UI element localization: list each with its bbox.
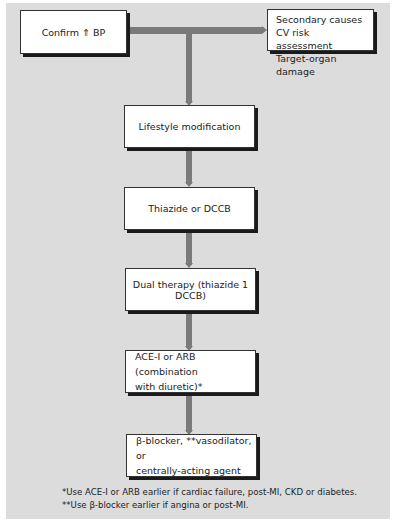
ace-arb-box: ACE-I or ARB (combination with diuretic)… (125, 350, 256, 393)
connector-vertical-1 (186, 30, 192, 103)
confirm-bp-box: Confirm ⇑ BP (20, 10, 127, 54)
assessment-line-2: CV risk assessment (276, 26, 365, 52)
connector-vertical-4 (186, 311, 192, 348)
step-5-line-2: centrally-acting agent (136, 463, 256, 478)
thiazide-dccb-box: Thiazide or DCCB (124, 187, 255, 230)
confirm-bp-label: Confirm ⇑ BP (42, 27, 106, 38)
step-3-label: Dual therapy (thiazide 1 DCCB) (126, 279, 255, 301)
assessment-line-1: Secondary causes (276, 13, 365, 26)
connector-vertical-5 (186, 393, 192, 432)
footnotes: *Use ACE-I or ARB earlier if cardiac fai… (62, 486, 357, 512)
connector-vertical-3 (186, 230, 192, 265)
connector-vertical-2 (186, 150, 192, 184)
step-1-label: Lifestyle modification (139, 121, 241, 132)
step-4-line-2: with diuretic)* (135, 379, 255, 394)
assessment-box: Secondary causes CV risk assessment Targ… (267, 9, 374, 51)
step-5-line-1: β-blocker, **vasodilator, or (136, 433, 256, 463)
step-4-line-1: ACE-I or ARB (combination (135, 349, 255, 379)
lifestyle-modification-box: Lifestyle modification (124, 105, 255, 148)
beta-blocker-box: β-blocker, **vasodilator, or centrally-a… (126, 434, 257, 477)
connector-horizontal (127, 27, 262, 34)
step-2-label: Thiazide or DCCB (148, 203, 231, 214)
dual-therapy-box: Dual therapy (thiazide 1 DCCB) (125, 268, 256, 311)
footnote-2: **Use β-blocker earlier if angina or pos… (62, 499, 357, 512)
footnote-1: *Use ACE-I or ARB earlier if cardiac fai… (62, 486, 357, 499)
assessment-line-3: Target-organ damage (276, 52, 365, 78)
